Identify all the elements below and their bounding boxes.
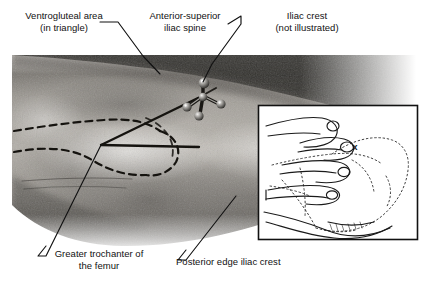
label-iliac-crest: Iliac crest (not illustrated) xyxy=(252,10,362,33)
inset-thigh-contour xyxy=(266,222,392,239)
leader-lines xyxy=(38,16,241,260)
inset-thumb xyxy=(266,117,337,147)
label-posterior-edge-iliac-crest: Posterior edge iliac crest xyxy=(176,256,318,268)
inset-middle-finger xyxy=(282,161,350,183)
inset-middle-lower xyxy=(280,171,336,174)
inset-knuckle-3 xyxy=(326,191,337,199)
inset-index-lower xyxy=(298,149,342,152)
triangle-upper-limb xyxy=(101,98,198,145)
leader-posterior-edge xyxy=(178,196,236,260)
injection-site-marker xyxy=(182,78,225,121)
inset-injection-site-mark: x xyxy=(352,142,357,152)
hand-placement-inset: x xyxy=(259,106,418,240)
inset-buttock-contour xyxy=(264,212,390,236)
inset-knuckle-1 xyxy=(341,142,354,152)
inset-palm-edge xyxy=(266,196,328,199)
dashed-inner-arc xyxy=(146,118,173,158)
skin-crease-upper xyxy=(22,178,132,181)
label-ventrogluteal-area: Ventrogluteal area (in triangle) xyxy=(8,10,120,33)
inset-dotted-pelvis xyxy=(270,138,408,232)
dashed-gluteal-line xyxy=(14,149,146,175)
inset-thumb-tip xyxy=(327,121,339,131)
inset-index-finger xyxy=(300,138,354,161)
illustration-canvas: x xyxy=(0,0,428,284)
figure-ventrogluteal-injection-site: x Ventrogluteal area (in triangle) Anter… xyxy=(0,0,428,284)
dashed-triangle-arc xyxy=(146,131,178,175)
inset-thumb-lower xyxy=(268,133,320,136)
skin-crease-lower xyxy=(24,187,126,189)
hip-photograph xyxy=(2,52,416,252)
skin-landmark-lines xyxy=(14,88,216,189)
label-greater-trochanter: Greater trochanter of the femur xyxy=(38,248,160,271)
triangle-upper-extension xyxy=(198,88,216,98)
inset-knuckle-2 xyxy=(338,167,350,176)
inset-hatching xyxy=(330,222,362,231)
leader-greater-trochanter xyxy=(38,145,101,256)
inset-ring-finger xyxy=(268,186,340,205)
triangle-lower-limb xyxy=(101,145,199,147)
label-anterior-superior-iliac-spine: Anterior-superior iliac spine xyxy=(133,10,237,33)
inset-fold-contour xyxy=(328,222,374,225)
dashed-iliac-crest-line xyxy=(14,119,160,131)
